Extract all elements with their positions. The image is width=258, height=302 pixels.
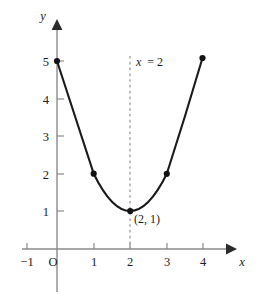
axis-of-symmetry-label: x = 2: [135, 55, 163, 69]
y-axis-arrowhead: [52, 19, 63, 30]
data-point-1-2: [91, 171, 97, 177]
y-tick-label-2: 2: [43, 168, 49, 182]
x-axis-arrowhead: [226, 244, 237, 255]
x-axis-label: x: [238, 255, 245, 269]
axis-of-symmetry-equation: = 2: [147, 55, 163, 69]
parabola-plot: y x 5 4 3 2 1 −1 O 1 2 3 4 x = 2 (2, 1): [0, 0, 258, 302]
y-tick-label-3: 3: [43, 130, 49, 144]
y-tick-label-4: 4: [43, 93, 50, 107]
x-tick-label-4: 4: [200, 255, 207, 269]
x-tick-label-origin: O: [48, 255, 57, 269]
x-tick-label-2: 2: [127, 255, 133, 269]
vertex-coordinate-label: (2, 1): [134, 212, 160, 226]
data-point-3-2: [164, 171, 170, 177]
data-point-4-5: [199, 55, 205, 61]
y-tick-label-1: 1: [43, 205, 49, 219]
graph-figure: y x 5 4 3 2 1 −1 O 1 2 3 4 x = 2 (2, 1): [0, 0, 258, 302]
x-tick-label-neg1: −1: [20, 255, 33, 269]
data-point-2-1: [127, 208, 133, 214]
data-point-0-5: [54, 58, 60, 64]
y-axis-label: y: [38, 9, 46, 23]
x-tick-label-1: 1: [91, 255, 97, 269]
x-tick-label-3: 3: [164, 255, 170, 269]
axis-of-symmetry-variable: x: [135, 55, 142, 69]
y-tick-label-5: 5: [43, 55, 49, 69]
